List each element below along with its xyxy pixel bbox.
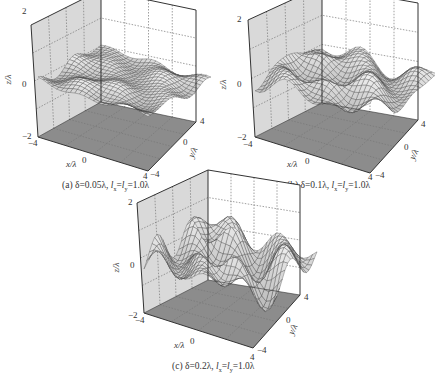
z-tick-0: 0 [237,80,242,89]
x-axis-label: x/λ [287,160,297,169]
surface-plot-c [110,185,330,374]
z-tick-2: 2 [22,7,27,16]
y-tick-neg4: −4 [375,171,385,180]
panel-c: 2 z/λ 0 −2 −4 0 x/λ 4 −4 0 4 y/λ (c) δ=0… [110,185,330,374]
panel-a: 2 z/λ 0 −2 −4 0 x/λ 4 −4 0 4 y/λ (a) δ=0… [0,0,220,190]
y-tick-4: 4 [200,117,205,126]
caption-text: (a) δ=0.05λ, [62,180,111,190]
caption-suffix: =1.0λ [348,180,370,190]
x-tick-0: 0 [82,156,87,165]
z-tick-2: 2 [128,198,133,207]
x-axis-label: x/λ [174,341,184,350]
x-axis-label: x/λ [66,160,76,169]
x-tick-0: 0 [305,157,310,166]
z-tick-0: 0 [130,261,135,270]
y-tick-neg4: −4 [257,346,267,355]
x-tick-neg4: −4 [28,139,38,148]
y-tick-0: 0 [404,143,409,152]
z-tick-2: 2 [237,15,242,24]
caption-c: (c) δ=0.2λ, lx=ly=1.0λ [172,362,254,373]
y-tick-neg4: −4 [150,170,160,179]
z-tick-0: 0 [22,80,27,89]
y-tick-4: 4 [304,293,309,302]
panel-b: 2 z/λ 0 −2 −4 0 x/λ 4 −4 0 4 y/λ (b) δ=0… [215,0,435,190]
surface-plot-b [215,0,435,190]
caption-suffix: =1.0λ [233,361,255,371]
z-axis-label: z/λ [219,80,228,90]
x-tick-0: 0 [190,337,195,346]
y-tick-0: 0 [183,138,188,147]
x-tick-neg4: −4 [135,316,145,325]
surface-plot-a [0,0,220,190]
x-tick-neg4: −4 [243,140,253,149]
caption-text: (c) δ=0.2λ, [172,361,216,371]
z-axis-label: z/λ [4,75,13,85]
y-tick-4: 4 [421,120,426,129]
z-axis-label: z/λ [112,263,121,273]
